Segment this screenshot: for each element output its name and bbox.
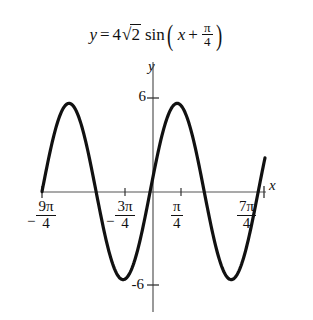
fraction: 9π 4 bbox=[36, 199, 55, 231]
fraction: π 4 bbox=[171, 199, 183, 231]
fraction-numerator: 3π bbox=[115, 199, 134, 215]
fraction-denominator: 4 bbox=[237, 215, 256, 232]
x-tick-label-pi-4: π 4 bbox=[170, 199, 183, 231]
y-axis-label: y bbox=[148, 58, 155, 75]
y-tick-label-6: 6 bbox=[118, 88, 146, 105]
minus-sign: − bbox=[27, 213, 35, 230]
x-axis-label: x bbox=[269, 177, 276, 194]
fraction-denominator: 4 bbox=[171, 215, 183, 232]
minus-sign: − bbox=[106, 213, 114, 230]
graph-figure: y=4√2sin(x+π4) y x 6 -6 − 9π 4 − bbox=[0, 0, 313, 320]
fraction: 3π 4 bbox=[115, 199, 134, 231]
fraction-denominator: 4 bbox=[115, 215, 134, 232]
fraction-numerator: π bbox=[171, 199, 183, 215]
fraction: 7π 4 bbox=[237, 199, 256, 231]
y-tick-label-minus-6: -6 bbox=[116, 276, 144, 293]
fraction-denominator: 4 bbox=[36, 215, 55, 232]
sine-curve-plot bbox=[0, 0, 313, 320]
x-tick-label-minus-3pi-4: − 3π 4 bbox=[106, 199, 135, 231]
x-tick-label-minus-9pi-4: − 9π 4 bbox=[27, 199, 56, 231]
fraction-numerator: 7π bbox=[237, 199, 256, 215]
fraction-numerator: 9π bbox=[36, 199, 55, 215]
x-tick-label-7pi-4: 7π 4 bbox=[236, 199, 256, 231]
